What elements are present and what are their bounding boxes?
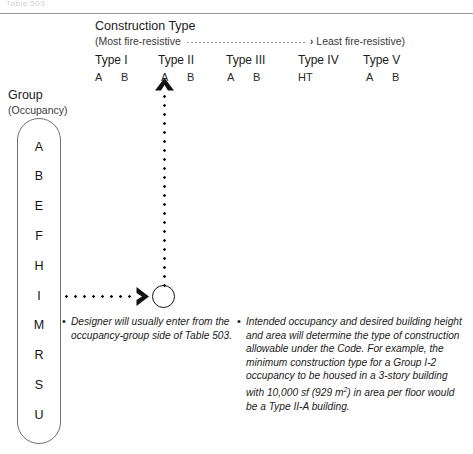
header-divider-rule xyxy=(0,13,473,14)
occupancy-group-list: A B E F H I M R S U xyxy=(17,118,61,444)
type-column-header: Type II xyxy=(158,53,194,67)
bullet-icon: • xyxy=(62,315,71,342)
right-chevron-arrow-icon xyxy=(135,285,152,308)
cropped-caption-remnant: Table 503 xyxy=(6,0,45,8)
occupancy-item: B xyxy=(35,170,43,183)
fire-resistance-scale: (Most fire-resistive › Least fire-resist… xyxy=(95,35,405,47)
subtype-label: A xyxy=(95,71,102,83)
note-right-part1: Intended occupancy and desired building … xyxy=(246,316,462,398)
scale-arrow-icon: › xyxy=(310,35,314,47)
occupancy-item: R xyxy=(34,349,43,362)
occupancy-item: F xyxy=(35,230,43,243)
subtype-label: B xyxy=(121,71,128,83)
note-right-text: Intended occupancy and desired building … xyxy=(246,315,467,414)
subtype-label: B xyxy=(253,71,260,83)
occupancy-item: E xyxy=(35,200,43,213)
subtype-label: A xyxy=(227,71,234,83)
construction-type-header-row: Type I Type II Type III Type IV Type V xyxy=(95,53,473,69)
scale-left-label: (Most fire-resistive xyxy=(95,35,181,47)
type-column-header: Type IV xyxy=(298,53,339,67)
subtype-label: B xyxy=(187,71,194,83)
occupancy-item: I xyxy=(37,290,40,303)
note-left-text: Designer will usually enter from the occ… xyxy=(71,315,242,342)
note-right: • Intended occupancy and desired buildin… xyxy=(237,315,467,414)
vertical-dotted-path xyxy=(163,92,166,292)
occupancy-item: U xyxy=(34,409,43,422)
subtype-label: A xyxy=(366,71,373,83)
bullet-icon: • xyxy=(237,315,246,414)
group-axis-title: Group xyxy=(8,88,43,102)
occupancy-item: H xyxy=(34,260,43,273)
subtype-label: B xyxy=(392,71,399,83)
type-column-header: Type I xyxy=(95,53,128,67)
note-left: • Designer will usually enter from the o… xyxy=(62,315,242,342)
scale-right-label: Least fire-resistive) xyxy=(316,35,405,47)
horizontal-dotted-path xyxy=(62,295,137,298)
occupancy-item: S xyxy=(35,379,43,392)
type-column-header: Type III xyxy=(226,53,265,67)
occupancy-item: M xyxy=(34,319,44,332)
construction-type-title: Construction Type xyxy=(95,19,196,33)
group-axis-subtitle: (Occupancy) xyxy=(8,104,68,116)
type-column-header: Type V xyxy=(363,53,400,67)
subtype-label: HT xyxy=(298,71,313,83)
scale-dotted-line xyxy=(186,42,306,43)
construction-subtype-row: A B A B A B HT A B xyxy=(95,71,473,85)
occupancy-item: A xyxy=(35,141,43,154)
up-chevron-arrow-icon xyxy=(153,77,176,92)
